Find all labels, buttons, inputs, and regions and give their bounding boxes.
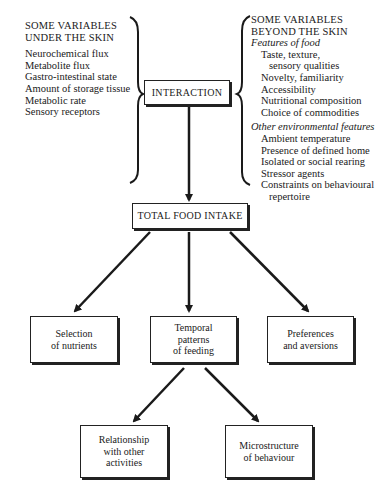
left-brace [130, 17, 143, 183]
node-label-line: and aversions [283, 340, 338, 352]
node-microstructure-behaviour: Microstructure of behaviour [225, 425, 313, 478]
node-label-line: of feeding [173, 345, 214, 357]
node-label-line: patterns [173, 334, 214, 346]
left-item: Gastro-intestinal state [25, 71, 130, 83]
edge-total-preferences [230, 232, 308, 311]
right-item: Novelty, familiarity [251, 72, 374, 84]
group-title-environment: Other environmental features [251, 121, 374, 133]
right-heading-line-2: BEYOND THE SKIN [251, 26, 374, 38]
node-label-line: of nutrients [51, 340, 97, 352]
node-selection-of-nutrients: Selection of nutrients [30, 316, 118, 363]
node-relationship-activities: Relationship with other activities [80, 425, 168, 478]
right-item: Nutritional composition [251, 95, 374, 107]
group-title-food: Features of food [251, 37, 374, 49]
node-total-label: TOTAL FOOD INTAKE [137, 210, 242, 222]
left-heading-line-1: SOME VARIABLES [25, 20, 130, 32]
right-item: Stressor agents [251, 168, 374, 180]
right-item: Constraints on behavioural [251, 179, 374, 191]
edge-temporal-microstructure [205, 368, 258, 421]
right-item: Choice of commodities [251, 107, 374, 119]
node-interaction: INTERACTION [144, 80, 230, 105]
right-column: SOME VARIABLES BEYOND THE SKIN Features … [251, 14, 374, 203]
right-item-cont: repertoire [251, 191, 374, 203]
left-item: Amount of storage tissue [25, 83, 130, 95]
left-column: SOME VARIABLES UNDER THE SKIN Neurochemi… [25, 20, 130, 118]
left-item: Metabolite flux [25, 60, 130, 72]
node-preferences-aversions: Preferences and aversions [267, 316, 354, 363]
right-item: Presence of defined home [251, 145, 374, 157]
node-label-line: Preferences [283, 328, 338, 340]
edge-total-selection [75, 232, 150, 311]
node-label-line: Relationship [99, 434, 150, 446]
left-heading-line-2: UNDER THE SKIN [25, 32, 130, 44]
node-interaction-label: INTERACTION [152, 87, 223, 99]
node-label-line: Temporal [173, 322, 214, 334]
right-item-cont: sensory qualities [251, 60, 374, 72]
node-label-line: Microstructure [239, 440, 298, 452]
right-item: Ambient temperature [251, 133, 374, 145]
right-item: Accessibility [251, 84, 374, 96]
node-label-line: Selection [51, 328, 97, 340]
left-item: Neurochemical flux [25, 48, 130, 60]
left-item: Metabolic rate [25, 95, 130, 107]
edge-temporal-relationship [134, 368, 184, 421]
node-label-line: with other [99, 446, 150, 458]
right-item: Isolated or social rearing [251, 156, 374, 168]
right-item: Taste, texture, [251, 49, 374, 61]
node-label-line: of behaviour [239, 452, 298, 464]
node-label-line: activities [99, 457, 150, 469]
left-item: Sensory receptors [25, 106, 130, 118]
node-temporal-patterns: Temporal patterns of feeding [150, 316, 237, 363]
right-brace [237, 16, 250, 185]
node-total-food-intake: TOTAL FOOD INTAKE [132, 203, 248, 229]
right-heading-line-1: SOME VARIABLES [251, 14, 374, 26]
